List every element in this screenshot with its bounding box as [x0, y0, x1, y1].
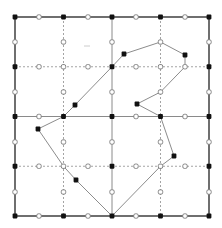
- hollow-node: [134, 114, 138, 118]
- hollow-node: [61, 190, 65, 194]
- hollow-node: [61, 40, 65, 44]
- hollow-node: [207, 140, 211, 144]
- hollow-node: [183, 65, 187, 69]
- hollow-node: [110, 190, 114, 194]
- hollow-node: [158, 164, 162, 168]
- hollow-node: [158, 40, 162, 44]
- hollow-node: [134, 214, 138, 218]
- hollow-node: [183, 15, 187, 19]
- filled-node: [158, 15, 163, 20]
- hollow-node: [37, 214, 41, 218]
- hollow-node: [37, 164, 41, 168]
- filled-node: [110, 15, 115, 20]
- filled-node: [13, 214, 18, 219]
- hollow-node: [158, 65, 162, 69]
- filled-node: [135, 102, 140, 107]
- filled-node: [110, 214, 115, 219]
- filled-node: [61, 114, 66, 119]
- hollow-node: [134, 65, 138, 69]
- hollow-node: [183, 164, 187, 168]
- hollow-node: [37, 114, 41, 118]
- hollow-node: [86, 164, 90, 168]
- filled-node: [73, 103, 78, 108]
- filled-node: [207, 64, 212, 69]
- hollow-node: [61, 164, 65, 168]
- hollow-node: [37, 65, 41, 69]
- filled-node: [207, 114, 212, 119]
- hollow-node: [37, 15, 41, 19]
- filled-node: [13, 164, 18, 169]
- hollow-node: [207, 190, 211, 194]
- filled-node: [61, 15, 66, 20]
- filled-node: [13, 114, 18, 119]
- hollow-node: [86, 214, 90, 218]
- filled-node: [183, 53, 188, 58]
- hollow-node: [134, 15, 138, 19]
- filled-node: [172, 154, 177, 159]
- hollow-node: [158, 190, 162, 194]
- hollow-node: [158, 90, 162, 94]
- hollow-node: [13, 40, 17, 44]
- filled-node: [74, 178, 79, 183]
- hollow-node: [86, 15, 90, 19]
- hollow-node: [61, 90, 65, 94]
- hollow-node: [13, 90, 17, 94]
- hollow-node: [158, 140, 162, 144]
- hollow-node: [13, 140, 17, 144]
- filled-node: [61, 214, 66, 219]
- filled-node: [207, 164, 212, 169]
- grid-polygon-diagram: [0, 0, 222, 228]
- filled-node: [13, 64, 18, 69]
- hollow-node: [207, 40, 211, 44]
- hollow-node: [110, 90, 114, 94]
- hollow-node: [183, 114, 187, 118]
- hollow-node: [61, 140, 65, 144]
- hollow-node: [86, 65, 90, 69]
- hollow-node: [13, 190, 17, 194]
- hollow-node: [207, 90, 211, 94]
- hollow-node: [134, 164, 138, 168]
- filled-node: [110, 164, 115, 169]
- filled-node: [207, 214, 212, 219]
- hollow-node: [183, 214, 187, 218]
- filled-node: [207, 15, 212, 20]
- filled-node: [36, 127, 41, 132]
- filled-node: [13, 15, 18, 20]
- filled-node: [158, 114, 163, 119]
- filled-node: [122, 52, 127, 57]
- hollow-node: [110, 140, 114, 144]
- filled-node: [110, 64, 115, 69]
- filled-node: [110, 114, 115, 119]
- filled-node: [158, 214, 163, 219]
- hollow-node: [61, 65, 65, 69]
- hollow-node: [110, 40, 114, 44]
